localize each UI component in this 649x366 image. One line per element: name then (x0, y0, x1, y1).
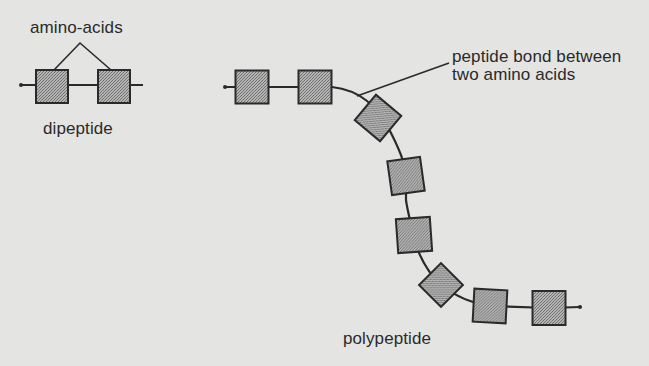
polypeptide-label: polypeptide (343, 330, 431, 348)
dipeptide-group (19, 43, 143, 103)
amino-acid-unit (299, 71, 332, 104)
diagram-canvas: amino-acids dipeptide peptide bond betwe… (0, 0, 649, 366)
peptide-bond-label-line2: two amino acids (452, 66, 621, 84)
polypeptide-group (223, 63, 582, 325)
amino-acid-unit (533, 291, 566, 325)
amino-acid-unit (236, 71, 269, 104)
amino-acid-unit (419, 263, 463, 307)
dipeptide-end-cap (19, 83, 23, 87)
amino-acid-unit (396, 217, 432, 253)
peptide-bond-label: peptide bond between two amino acids (452, 48, 621, 84)
polypeptide-start-cap (223, 85, 227, 89)
amino-acids-pointer (54, 43, 111, 70)
polypeptide-end-cap (578, 305, 582, 309)
amino-acid-unit (355, 95, 401, 141)
amino-acid-unit (473, 289, 508, 324)
amino-acid-unit (36, 70, 68, 103)
amino-acid-unit (387, 157, 424, 195)
polypeptide-backbone (224, 87, 580, 308)
peptide-bond-label-line1: peptide bond between (452, 48, 621, 66)
peptide-bond-pointer (357, 63, 449, 96)
amino-acids-label: amino-acids (30, 19, 123, 37)
amino-acid-unit (98, 70, 130, 103)
dipeptide-label: dipeptide (43, 120, 113, 138)
